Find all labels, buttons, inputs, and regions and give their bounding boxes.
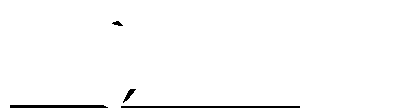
- stippled-ribbon-graphic: [0, 0, 395, 112]
- ribbon-illustration: [0, 0, 395, 112]
- ribbon-left-tip: [6, 16, 22, 52]
- ribbon-middle-band: [120, 88, 300, 108]
- ribbon-curl-2: [288, 18, 392, 106]
